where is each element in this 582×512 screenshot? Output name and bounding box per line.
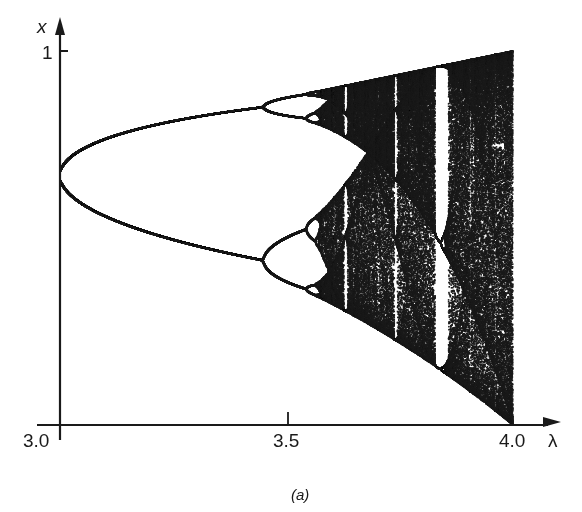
x-tick-label-3-5: 3.5: [273, 431, 299, 450]
bifurcation-figure: x 1 3.0 3.5 4.0 λ (a): [0, 0, 582, 512]
y-axis-label: x: [37, 17, 47, 36]
x-axis-label: λ: [548, 431, 558, 450]
x-axis-arrow-icon: [543, 417, 561, 427]
figure-caption: (a): [291, 486, 309, 503]
y-tick-label-1: 1: [42, 43, 53, 62]
x-tick-label-4-0: 4.0: [499, 431, 525, 450]
x-tick-label-3-0: 3.0: [23, 431, 49, 450]
y-axis-arrow-icon: [55, 17, 65, 35]
